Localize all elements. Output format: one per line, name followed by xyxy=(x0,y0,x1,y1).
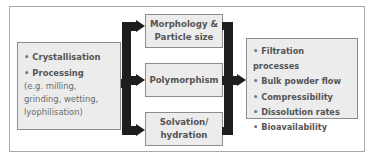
bullet-icon: • xyxy=(253,92,258,102)
effect-item: •Compressibility xyxy=(253,90,351,105)
bullet-icon: • xyxy=(253,76,258,86)
solvation-box: Solvation/ hydration xyxy=(145,112,223,146)
cause-item-processing: •Processing xyxy=(24,67,114,80)
arrow-head-icon xyxy=(136,124,145,136)
bullet-icon: • xyxy=(253,122,258,132)
polymorphism-box: Polymorphism xyxy=(145,63,223,97)
processing-example-line: (e.g. milling, xyxy=(24,80,114,93)
effect-item: •Bioavailability xyxy=(253,120,351,135)
morphology-box: Morphology & Particle size xyxy=(145,14,223,48)
cause-item-crystallisation: •Crystallisation xyxy=(24,51,114,64)
bullet-icon: • xyxy=(24,68,29,78)
effect-item: •Dissolution rates xyxy=(253,105,351,120)
bullet-icon: • xyxy=(253,107,258,117)
processing-example-line: lyophilisation) xyxy=(24,106,114,119)
bullet-icon: • xyxy=(253,46,258,56)
processing-example-line: grinding, wetting, xyxy=(24,93,114,106)
causes-box: •Crystallisation •Processing (e.g. milli… xyxy=(17,42,121,130)
arrow-head-icon xyxy=(237,74,246,86)
effect-item: •Filtration processes xyxy=(253,44,351,74)
effect-item: •Bulk powder flow xyxy=(253,74,351,89)
arrow-head-icon xyxy=(136,20,145,32)
effects-box: •Filtration processes •Bulk powder flow … xyxy=(246,38,358,119)
bullet-icon: • xyxy=(24,52,29,62)
arrow-head-icon xyxy=(136,74,145,86)
